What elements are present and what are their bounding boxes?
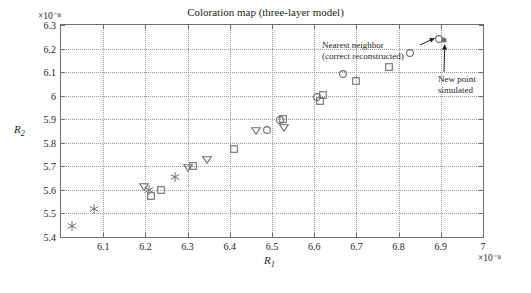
x-tick [483, 233, 484, 237]
data-point-triangle-down [202, 156, 212, 165]
x-gridline [145, 25, 146, 237]
data-point-star [88, 204, 99, 215]
y-tick-label: 5.4 [34, 232, 56, 243]
x-gridline [188, 25, 189, 237]
x-tick [314, 233, 315, 237]
data-point-square [278, 115, 287, 124]
x-tick-label: 6.4 [224, 241, 237, 252]
x-tick-label: 6.3 [181, 241, 194, 252]
annotation-new-point-line1: New point [438, 74, 476, 85]
y-gridline [61, 143, 483, 144]
x-gridline [441, 25, 442, 237]
y-tick-right [479, 49, 483, 50]
y-axis-label: R2 [14, 123, 25, 138]
y-tick [61, 237, 65, 238]
x-tick-label: 6.9 [435, 241, 448, 252]
x-tick-top [483, 25, 484, 29]
chart-root: Coloration map (three-layer model) ×10⁻⁸… [0, 0, 531, 293]
x-tick-label: 6.6 [308, 241, 321, 252]
y-tick [61, 49, 65, 50]
data-point-circle [406, 48, 415, 57]
y-tick-right [479, 237, 483, 238]
plot-area [60, 24, 484, 238]
x-tick [441, 233, 442, 237]
data-point-star [169, 171, 180, 182]
x-axis-exponent: ×10⁻⁸ [478, 252, 501, 263]
annotation-new-point: New point simulated [438, 74, 476, 96]
y-gridline [61, 213, 483, 214]
x-tick-top [188, 25, 189, 29]
data-point-square [318, 91, 327, 100]
y-tick [61, 143, 65, 144]
x-tick-top [272, 25, 273, 29]
x-axis-label: R1 [264, 254, 275, 269]
y-tick-label: 5.9 [34, 114, 56, 125]
y-tick [61, 119, 65, 120]
data-point-triangle-down [251, 127, 261, 136]
y-gridline [61, 190, 483, 191]
y-tick [61, 166, 65, 167]
y-tick-label: 6.1 [34, 67, 56, 78]
x-tick-top [103, 25, 104, 29]
y-tick-label: 5.8 [34, 137, 56, 148]
y-tick [61, 96, 65, 97]
y-tick-label: 6.3 [34, 20, 56, 31]
y-tick-right [479, 166, 483, 167]
x-tick-label: 7 [481, 241, 486, 252]
y-tick [61, 213, 65, 214]
data-point-square [146, 191, 155, 200]
x-tick [230, 233, 231, 237]
data-point-square [385, 62, 394, 71]
x-tick-top [441, 25, 442, 29]
data-point-square [189, 162, 198, 171]
x-tick-label: 6.7 [350, 241, 363, 252]
y-tick-label: 6 [34, 90, 56, 101]
x-gridline [230, 25, 231, 237]
data-point-square [230, 145, 239, 154]
x-tick [399, 233, 400, 237]
y-gridline [61, 72, 483, 73]
x-gridline [272, 25, 273, 237]
y-tick [61, 190, 65, 191]
x-tick [145, 233, 146, 237]
x-tick-label: 6.1 [97, 241, 110, 252]
y-tick-right [479, 119, 483, 120]
annotation-nearest-neighbor-line1: Nearest neighbor [322, 40, 404, 51]
data-point-circle [262, 126, 271, 135]
y-tick [61, 25, 65, 26]
x-gridline [314, 25, 315, 237]
x-tick-label: 6.8 [392, 241, 405, 252]
data-point-star [66, 220, 77, 231]
y-gridline [61, 166, 483, 167]
y-tick-label: 5.7 [34, 161, 56, 172]
x-tick-top [314, 25, 315, 29]
y-gridline [61, 96, 483, 97]
y-tick-label: 6.2 [34, 43, 56, 54]
x-tick [356, 233, 357, 237]
y-tick-right [479, 96, 483, 97]
y-tick-right [479, 213, 483, 214]
y-tick-label: 5.6 [34, 184, 56, 195]
x-tick [103, 233, 104, 237]
y-tick-right [479, 143, 483, 144]
x-tick-top [356, 25, 357, 29]
data-point-triangle-down [279, 124, 289, 133]
y-gridline [61, 119, 483, 120]
annotation-nearest-neighbor: Nearest neighbor (correct reconstructed) [322, 40, 404, 62]
data-point-square [157, 185, 166, 194]
x-tick-top [399, 25, 400, 29]
y-tick [61, 72, 65, 73]
x-tick-label: 6.2 [139, 241, 152, 252]
y-tick-right [479, 25, 483, 26]
x-tick-top [230, 25, 231, 29]
data-point-dot [440, 36, 448, 44]
chart-title: Coloration map (three-layer model) [0, 6, 531, 18]
y-tick-right [479, 72, 483, 73]
y-tick-right [479, 190, 483, 191]
x-tick [272, 233, 273, 237]
annotation-nearest-neighbor-line2: (correct reconstructed) [322, 51, 404, 62]
annotation-new-point-line2: simulated [438, 85, 476, 96]
x-tick-label: 6.5 [266, 241, 279, 252]
x-tick [188, 233, 189, 237]
y-tick-label: 5.5 [34, 208, 56, 219]
